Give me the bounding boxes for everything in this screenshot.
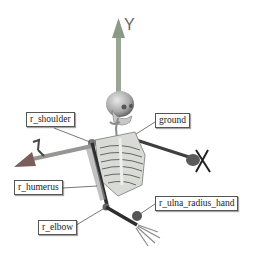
- label-r-ulna-radius-hand: r_ulna_radius_hand: [155, 196, 238, 211]
- label-r-shoulder: r_shoulder: [26, 112, 75, 127]
- skeleton-diagram: Y: [0, 0, 253, 259]
- label-r-elbow: r_elbow: [38, 220, 77, 235]
- skull: [106, 91, 134, 125]
- hand: [136, 225, 160, 246]
- label-r-humerus: r_humerus: [14, 180, 63, 195]
- y-axis-label: Y: [124, 16, 135, 33]
- y-axis: Y: [112, 16, 135, 92]
- z-axis-label: [33, 140, 44, 156]
- z-axis: [14, 140, 92, 167]
- label-ground: ground: [155, 113, 190, 128]
